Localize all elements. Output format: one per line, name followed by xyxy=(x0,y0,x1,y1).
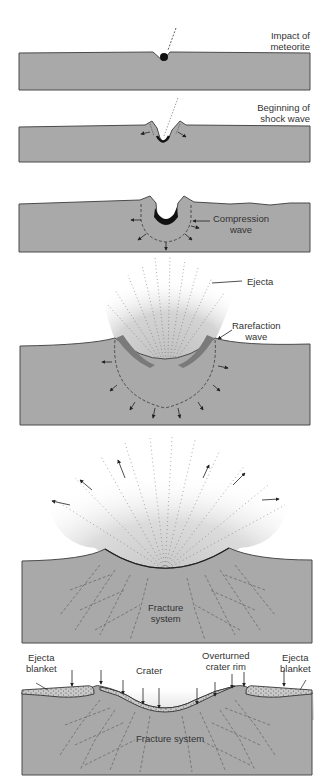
label-ejecta-blanket-right: Ejecta blanket xyxy=(280,652,311,674)
label-beginning-of-shock-wave: Beginning of shock wave xyxy=(257,102,310,124)
label-rarefaction-wave: Rarefaction wave xyxy=(232,320,281,342)
label-fracture-system-stage6: Fracture system xyxy=(136,733,204,744)
label-ejecta-blanket-left: Ejecta blanket xyxy=(26,652,57,674)
label-ejecta: Ejecta xyxy=(247,276,273,287)
label-overturned-crater-rim: Overturned crater rim xyxy=(202,650,250,672)
label-impact-of-meteorite: Impact of meteorite xyxy=(270,30,310,52)
trajectory-line xyxy=(168,28,176,50)
stage-6-crater xyxy=(22,670,314,775)
label-crater: Crater xyxy=(136,665,162,676)
stage-1-impact xyxy=(19,28,310,90)
label-fracture-system-stage5: Fracture system xyxy=(148,602,183,624)
rarefaction-leader xyxy=(218,330,232,339)
crater-lining xyxy=(157,136,169,142)
label-compression-wave: Compression wave xyxy=(213,213,269,235)
ejecta-blanket-right-leader xyxy=(300,680,306,690)
meteorite-icon xyxy=(160,53,168,61)
